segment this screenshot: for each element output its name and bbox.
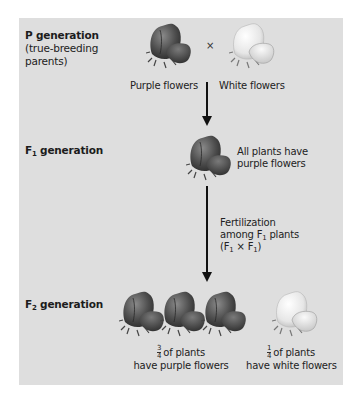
p-generation-label: P generation (true-breeding parents) [25,29,99,68]
p-generation-sublabel-1: (true-breeding [25,42,99,55]
f1-caption: All plants have purple flowers [237,146,308,170]
f2-purple-caption: 34of plants have purple flowers [126,345,236,372]
fertilization-note: Fertilization among F1 plants (F1 × F1) [220,217,299,253]
arrow-f1-to-f2 [206,186,208,274]
cross-symbol: × [206,40,214,51]
arrow-p-to-f1 [206,82,208,118]
purple-flowers-caption: Purple flowers [130,80,198,92]
white-flower-icon [229,22,277,70]
purple-flower-icon [146,22,194,70]
f1-generation-label: F1 generation [25,144,103,157]
f2-white-caption: 14of plants have white flowers [246,345,336,372]
white-flowers-caption: White flowers [219,80,285,92]
fraction-one-quarter: 14 [267,345,271,360]
purple-flower-icon [186,134,234,182]
fraction-three-quarters: 34 [157,345,161,360]
f2-generation-label: F2 generation [25,298,103,311]
p-generation-sublabel-2: parents) [25,55,99,68]
white-flower-icon [272,290,320,338]
purple-flower-icon [201,290,249,338]
